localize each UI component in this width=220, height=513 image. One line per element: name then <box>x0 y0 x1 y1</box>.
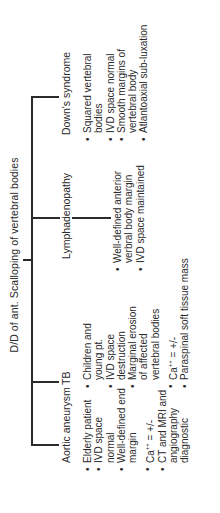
list-item: Squared vertebral bodies <box>82 23 105 141</box>
list-item: IVD space maintained <box>135 151 146 271</box>
branch-label-aortic: Aortic aneurysm <box>60 385 72 465</box>
branch-list-lymph: Well-defined anterior verbral body margi… <box>112 151 146 271</box>
list-item: Ca++ = +/- <box>142 387 156 471</box>
diagram-title: D/D of ant. Scalloping of vertebral bodi… <box>8 115 20 395</box>
list-item: IVD space normal <box>105 23 116 141</box>
list-item: Well-defined end margin <box>116 387 139 471</box>
list-item: Atlantoaxial sub-luxation <box>138 23 149 141</box>
branch-line-aortic <box>31 445 59 447</box>
differential-diagnosis-diagram: D/D of ant. Scalloping of vertebral bodi… <box>0 0 220 513</box>
list-item: Marginal erosion of affected vertebral b… <box>127 302 161 388</box>
branch-list-tb: Children and young pt. IVD space destruc… <box>82 302 191 388</box>
list-item: IVD space destruction <box>105 302 128 388</box>
branch-line-downs <box>31 97 59 99</box>
list-item: IVD space normal <box>93 387 116 471</box>
branch-label-lymph: Lymphadenopathy <box>60 171 72 261</box>
list-item: Ca++ = +/- <box>165 302 179 388</box>
branch-list-aortic: Elderly patient IVD space normal Well-de… <box>82 387 191 471</box>
list-item: Elderly patient <box>82 387 93 471</box>
list-item: CT and MRI and angiography diagnostic <box>157 387 191 471</box>
branch-label-downs: Down's syndrome <box>60 50 72 137</box>
list-item: Smooth margins of vertebral body <box>116 23 139 141</box>
branch-line-tb <box>31 382 59 384</box>
list-item: Paraspinal soft tissue mass <box>179 302 190 388</box>
list-item: Children and young pt. <box>82 302 105 388</box>
list-item: Well-defined anterior verbral body margi… <box>112 151 135 271</box>
calcium-text: Ca++ = +/- <box>168 337 179 380</box>
branch-label-tb: TB <box>60 370 72 387</box>
calcium-text: Ca++ = +/- <box>145 420 156 463</box>
branch-list-downs: Squared vertebral bodies IVD space norma… <box>82 23 150 141</box>
trunk-line <box>31 96 33 446</box>
